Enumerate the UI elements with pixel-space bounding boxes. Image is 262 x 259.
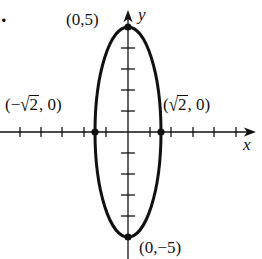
label-left-radicand: 2 [29,95,40,113]
y-axis-label: y [138,6,146,23]
point-left [91,128,98,135]
label-right-close: , 0) [188,95,211,114]
problem-marker: . [1,4,7,26]
label-right-radicand: 2 [177,95,188,113]
label-left-point: (−√2, 0) [5,95,62,113]
ellipse-graph [0,0,262,259]
x-axis-label: x [243,136,251,153]
point-bottom [124,233,131,240]
sqrt-icon: √ [20,95,29,115]
label-bottom-point: (0,−5) [139,239,181,256]
label-top-point: (0,5) [66,11,99,28]
x-axis [0,127,250,137]
label-left-close: , 0) [39,95,62,114]
point-top [124,23,131,30]
y-axis [121,16,135,259]
label-left-open: (− [5,95,20,114]
sqrt-icon: √ [169,95,178,115]
point-right [157,128,164,135]
label-right-point: (√2, 0) [163,95,210,113]
